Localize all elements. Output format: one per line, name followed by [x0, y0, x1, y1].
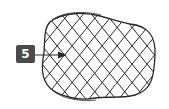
- callout-number-badge: 5: [16, 45, 35, 63]
